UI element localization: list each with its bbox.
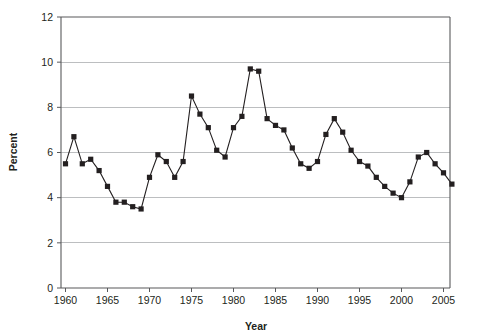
x-axis-tick-labels: 1960196519701975198019851990199520002005 xyxy=(54,294,456,306)
y-tick-label: 2 xyxy=(47,237,53,249)
data-point-marker: 1982: 9.7 xyxy=(248,66,253,71)
data-point-marker: 2000: 4 xyxy=(399,195,404,200)
data-point-marker: 1998: 4.5 xyxy=(382,184,387,189)
data-point-marker: 1967: 3.8 xyxy=(122,200,127,205)
data-point-marker: 1981: 7.6 xyxy=(239,114,244,119)
data-point-marker: 1968: 3.6 xyxy=(130,204,135,209)
x-tick-label: 1990 xyxy=(306,294,330,306)
x-tick-label: 1965 xyxy=(96,294,120,306)
data-point-marker: 2002: 5.8 xyxy=(416,154,421,159)
data-point-marker: 1979: 5.8 xyxy=(223,154,228,159)
data-point-marker: 1987: 6.2 xyxy=(290,145,295,150)
data-series-markers: 1960: 5.51961: 6.71962: 5.51963: 5.71964… xyxy=(63,66,455,211)
x-tick-label: 1975 xyxy=(180,294,204,306)
y-axis-ticks xyxy=(57,17,61,288)
data-point-marker: 2006: 4.6 xyxy=(449,182,454,187)
data-point-marker: 1988: 5.5 xyxy=(298,161,303,166)
data-point-marker: 1994: 6.1 xyxy=(349,148,354,153)
x-tick-label: 1960 xyxy=(54,294,78,306)
data-point-marker: 1975: 8.5 xyxy=(189,93,194,98)
data-point-marker: 1970: 4.9 xyxy=(147,175,152,180)
data-point-marker: 1996: 5.4 xyxy=(365,163,370,168)
data-point-marker: 1991: 6.8 xyxy=(323,132,328,137)
data-point-marker: 1989: 5.3 xyxy=(307,166,312,171)
data-series-line xyxy=(66,69,452,209)
data-point-marker: 1983: 9.6 xyxy=(256,69,261,74)
data-point-marker: 1984: 7.5 xyxy=(265,116,270,121)
data-point-marker: 1964: 5.2 xyxy=(97,168,102,173)
data-point-marker: 1972: 5.6 xyxy=(164,159,169,164)
data-point-marker: 2003: 6 xyxy=(424,150,429,155)
data-point-marker: 2001: 4.7 xyxy=(407,179,412,184)
data-point-marker: 1986: 7 xyxy=(281,127,286,132)
x-tick-label: 2005 xyxy=(432,294,456,306)
x-tick-label: 1980 xyxy=(222,294,246,306)
data-point-marker: 1961: 6.7 xyxy=(71,134,76,139)
data-point-marker: 1985: 7.2 xyxy=(273,123,278,128)
data-point-marker: 1973: 4.9 xyxy=(172,175,177,180)
data-point-marker: 1993: 6.9 xyxy=(340,130,345,135)
data-point-marker: 1980: 7.1 xyxy=(231,125,236,130)
y-axis-tick-labels: 024681012 xyxy=(41,11,53,294)
y-tick-label: 12 xyxy=(41,11,53,23)
data-point-marker: 1999: 4.2 xyxy=(391,191,396,196)
unemployment-line-chart: 024681012 196019651970197519801985199019… xyxy=(0,0,477,334)
data-point-marker: 1997: 4.9 xyxy=(374,175,379,180)
data-point-marker: 1965: 4.5 xyxy=(105,184,110,189)
data-point-marker: 1990: 5.6 xyxy=(315,159,320,164)
x-tick-label: 1985 xyxy=(264,294,288,306)
data-point-marker: 1992: 7.5 xyxy=(332,116,337,121)
data-point-marker: 1962: 5.5 xyxy=(80,161,85,166)
data-point-marker: 1960: 5.5 xyxy=(63,161,68,166)
data-point-marker: 1978: 6.1 xyxy=(214,148,219,153)
data-point-marker: 2005: 5.1 xyxy=(441,170,446,175)
x-tick-label: 1970 xyxy=(138,294,162,306)
y-tick-label: 8 xyxy=(47,101,53,113)
x-axis-ticks xyxy=(66,288,444,292)
data-point-marker: 1976: 7.7 xyxy=(197,112,202,117)
data-point-marker: 1969: 3.5 xyxy=(139,206,144,211)
y-tick-label: 6 xyxy=(47,146,53,158)
chart-canvas: 024681012 196019651970197519801985199019… xyxy=(0,0,477,334)
data-point-marker: 1971: 5.9 xyxy=(155,152,160,157)
data-point-marker: 1995: 5.6 xyxy=(357,159,362,164)
y-axis-title: Percent xyxy=(7,132,19,171)
x-axis-title: Year xyxy=(245,320,267,332)
series-polyline xyxy=(66,69,452,209)
x-tick-label: 1995 xyxy=(348,294,372,306)
data-point-marker: 1963: 5.7 xyxy=(88,157,93,162)
data-point-marker: 1966: 3.8 xyxy=(113,200,118,205)
grid-lines xyxy=(61,62,450,243)
x-tick-label: 2000 xyxy=(390,294,414,306)
y-tick-label: 10 xyxy=(41,56,53,68)
y-tick-label: 0 xyxy=(47,282,53,294)
data-point-marker: 2004: 5.5 xyxy=(433,161,438,166)
data-point-marker: 1977: 7.1 xyxy=(206,125,211,130)
y-tick-label: 4 xyxy=(47,191,53,203)
data-point-marker: 1974: 5.6 xyxy=(181,159,186,164)
